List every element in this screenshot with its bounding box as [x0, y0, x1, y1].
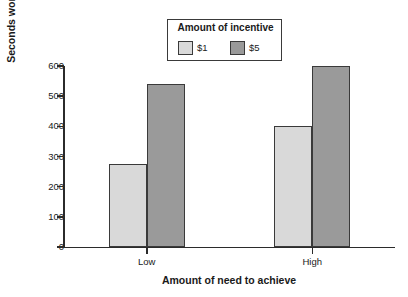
- legend-swatch-dollar5: [230, 41, 245, 55]
- y-axis-tick-mark: [57, 186, 64, 188]
- legend-swatch-dollar1: [178, 41, 193, 55]
- y-axis-tick: 400: [0, 121, 64, 131]
- y-axis-tick-mark: [57, 65, 64, 67]
- y-axis-tick-mark: [57, 95, 64, 97]
- y-axis-tick: 0: [0, 242, 64, 252]
- x-axis-group-label-low: Low: [107, 256, 187, 268]
- x-axis-title: Amount of need to achieve: [63, 274, 395, 286]
- y-axis-tick-mark: [57, 126, 64, 128]
- y-axis-tick: 300: [0, 152, 64, 162]
- legend-label-dollar1: $1: [197, 41, 208, 55]
- plot-area: [64, 66, 395, 247]
- bar-low-dollar5: [147, 84, 185, 247]
- legend-label-dollar5: $5: [249, 41, 260, 55]
- x-axis-line: [63, 247, 395, 249]
- y-axis-tick: 600: [0, 61, 64, 71]
- y-axis-tick: 200: [0, 182, 64, 192]
- x-axis-group-label-high: High: [272, 256, 352, 268]
- y-axis-tick-mark: [57, 156, 64, 158]
- y-axis-tick-mark: [57, 216, 64, 218]
- bar-low-dollar1: [109, 164, 147, 247]
- x-axis-tick-mark: [146, 248, 148, 254]
- y-axis-tick: 100: [0, 212, 64, 222]
- legend-title: Amount of incentive: [168, 22, 283, 33]
- bar-high-dollar5: [312, 66, 350, 247]
- y-axis-tick: 500: [0, 91, 64, 101]
- bar-chart: Seconds worked on anagrams 0100200300400…: [0, 0, 408, 297]
- bar-high-dollar1: [274, 126, 312, 247]
- x-axis-tick-mark: [312, 248, 314, 254]
- legend: Amount of incentive $1 $5: [167, 19, 282, 61]
